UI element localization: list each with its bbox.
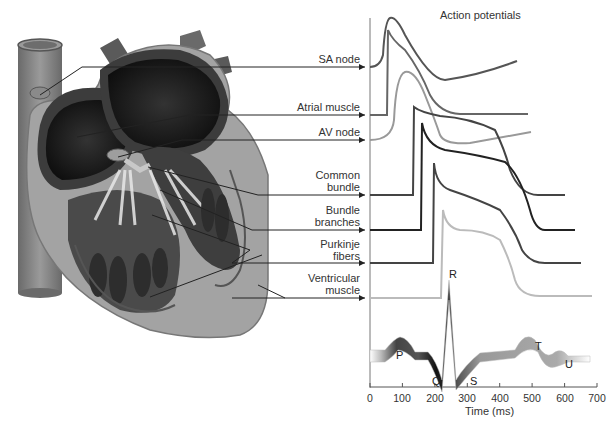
x-tick-100: 100: [393, 392, 411, 404]
ecg-label-s: S: [470, 375, 477, 387]
label-text-line2: muscle: [308, 284, 360, 296]
label-ventricular-muscle: Ventricular muscle: [308, 272, 360, 296]
label-text-line2: bundle: [315, 181, 360, 193]
ecg-label-p: P: [396, 349, 403, 361]
label-purkinje-fibers: Purkinje fibers: [320, 238, 360, 262]
action-potential-traces: [370, 18, 592, 298]
chart-title: Action potentials: [440, 9, 521, 21]
x-tick-600: 600: [556, 392, 574, 404]
x-tick-500: 500: [523, 392, 541, 404]
label-sa-node: SA node: [318, 53, 360, 65]
label-av-node: AV node: [319, 126, 360, 138]
label-text: Purkinje: [320, 238, 360, 250]
x-ticks: [370, 383, 597, 387]
label-atrial-muscle: Atrial muscle: [297, 101, 360, 113]
x-tick-700: 700: [588, 392, 606, 404]
label-text: Atrial muscle: [297, 101, 360, 113]
ecg-label-t: T: [535, 340, 542, 352]
ecg-label-r: R: [449, 268, 457, 280]
x-tick-200: 200: [426, 392, 444, 404]
x-tick-400: 400: [491, 392, 509, 404]
label-text: Bundle: [315, 204, 360, 216]
label-text-line2: branches: [315, 216, 360, 228]
trace-purkinje: [370, 163, 581, 263]
label-text: Common: [315, 169, 360, 181]
x-tick-300: 300: [458, 392, 476, 404]
sa-node-icon: [30, 87, 50, 99]
label-common-bundle: Common bundle: [315, 169, 360, 193]
trace-bundle-branches: [370, 123, 575, 230]
x-axis-label: Time (ms): [465, 405, 514, 417]
label-text-line2: fibers: [320, 250, 360, 262]
trace-sa-node: [370, 18, 517, 80]
x-tick-0: 0: [367, 392, 373, 404]
label-text: SA node: [318, 53, 360, 65]
trace-av-node: [370, 72, 531, 143]
trace-ventricular: [370, 210, 592, 298]
ecg-label-q: Q: [432, 375, 441, 387]
heart-illustration: [0, 0, 615, 428]
trace-atrial-muscle: [370, 30, 528, 115]
label-text: Ventricular: [308, 272, 360, 284]
label-bundle-branches: Bundle branches: [315, 204, 360, 228]
ecg-label-u: U: [565, 358, 573, 370]
label-text: AV node: [319, 126, 360, 138]
trace-common-bundle: [370, 107, 565, 195]
heart-conduction-diagram: Action potentials SA node Atrial muscle …: [0, 0, 615, 428]
